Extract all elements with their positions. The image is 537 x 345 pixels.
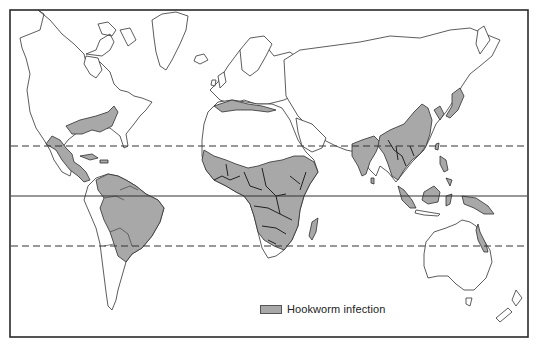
greenland — [152, 12, 188, 70]
infected-sumatra — [398, 186, 416, 208]
australia — [424, 220, 492, 290]
infected-new-guinea — [462, 196, 494, 214]
infected-sri-lanka — [371, 178, 374, 184]
new-zealand — [496, 290, 522, 322]
java — [415, 210, 440, 216]
legend: Hookworm infection — [260, 303, 385, 315]
infected-borneo — [422, 186, 440, 204]
world-map — [0, 0, 537, 345]
infected-caribbean — [80, 154, 108, 163]
tasmania — [466, 298, 472, 306]
iceland — [194, 54, 208, 64]
legend-label: Hookworm infection — [287, 303, 385, 315]
infected-sub-saharan-africa — [202, 150, 318, 250]
infected-madagascar — [309, 218, 318, 240]
arctic-islands — [86, 22, 136, 56]
infected-philippines — [440, 156, 452, 186]
legend-swatch — [260, 305, 282, 314]
